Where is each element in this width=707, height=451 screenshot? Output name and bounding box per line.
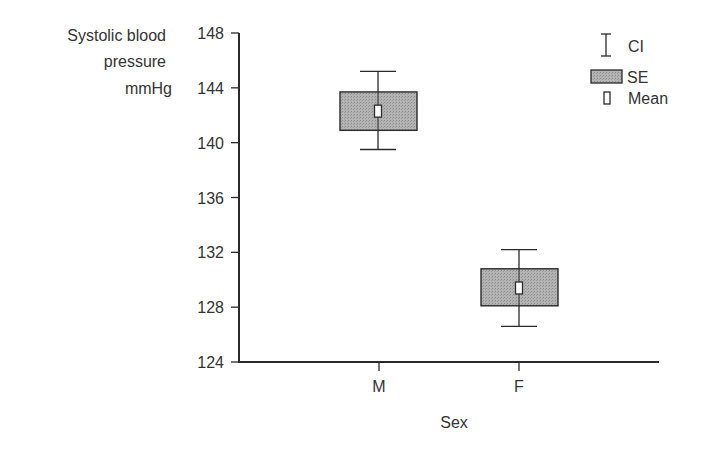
mean-marker — [375, 105, 382, 117]
y-tick-label: 144 — [197, 80, 224, 97]
mean-marker-icon — [604, 92, 610, 104]
x-tick-label-f: F — [514, 378, 524, 395]
x-axis-label: Sex — [440, 414, 468, 431]
legend-item-mean: Mean — [604, 90, 668, 107]
y-label-line-2: pressure — [104, 53, 166, 70]
legend: CI SE Mean — [591, 34, 668, 107]
error-bar-icon — [601, 34, 611, 56]
mean-marker — [516, 282, 523, 294]
plot-area — [340, 71, 558, 326]
legend-item-ci: CI — [601, 34, 644, 56]
y-axis-label: Systolic blood pressure mmHg — [67, 27, 172, 97]
y-tick-label: 124 — [197, 354, 224, 371]
shaded-box-icon — [591, 70, 622, 83]
box-f — [481, 250, 558, 327]
y-tick-label: 148 — [197, 25, 224, 42]
y-label-line-3: mmHg — [125, 80, 172, 97]
y-tick-label: 140 — [197, 135, 224, 152]
x-tick-label-m: M — [372, 378, 385, 395]
legend-item-se: SE — [591, 69, 648, 86]
y-tick-label: 128 — [197, 299, 224, 316]
legend-label-mean: Mean — [628, 90, 668, 107]
legend-label-ci: CI — [628, 38, 644, 55]
y-tick-label: 132 — [197, 244, 224, 261]
legend-label-se: SE — [627, 69, 648, 86]
y-axis-ticks: 124128132136140144148 — [197, 25, 239, 371]
y-tick-label: 136 — [197, 190, 224, 207]
y-label-line-1: Systolic blood — [67, 27, 166, 44]
box-m — [340, 71, 417, 149]
chart-canvas: Systolic blood pressure mmHg 12412813213… — [0, 0, 707, 451]
